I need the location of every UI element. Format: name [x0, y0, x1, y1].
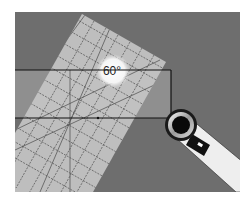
cutter-blade-hub	[172, 116, 190, 134]
angle-label: 60°	[103, 64, 121, 78]
quilting-diagram: 60°	[0, 0, 251, 201]
